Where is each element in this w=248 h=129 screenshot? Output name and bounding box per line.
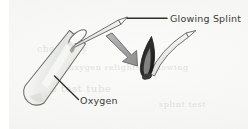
lit-splint-tip (186, 31, 196, 38)
splint-tip (119, 17, 128, 24)
oxygen-leader-line (55, 76, 79, 100)
leader-line-icon (55, 76, 79, 100)
lit-splint-icon (140, 31, 196, 81)
lit-splint-stick (150, 33, 189, 76)
oxygen-label: Oxygen (80, 95, 118, 106)
diagram-artwork: Glowing Splint Oxygen (0, 0, 248, 129)
motion-arrow (106, 33, 138, 66)
test-tube-icon (24, 27, 89, 105)
arrow-down-right-icon (106, 33, 138, 66)
diagram-page: chemistry oxygen relights a glowing the … (0, 0, 248, 129)
glowing-splint-label: Glowing Splint (170, 13, 241, 24)
